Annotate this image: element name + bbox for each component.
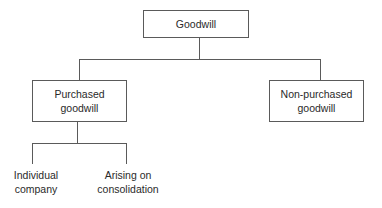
connector-level1-horizontal (79, 59, 321, 60)
leaf-arising-line2: consolidation (97, 182, 158, 196)
leaf-individual-line1: Individual (14, 168, 58, 182)
connector-purchased-stem (77, 122, 78, 143)
leaf-arising-line1: Arising on (97, 168, 158, 182)
connector-to-purchased (79, 59, 80, 80)
node-purchased-line1: Purchased (54, 87, 104, 101)
node-non-purchased-line1: Non-purchased (281, 87, 353, 101)
leaf-arising-on-consolidation: Arising on consolidation (97, 168, 158, 196)
leaf-individual-line2: company (14, 182, 58, 196)
node-purchased-goodwill: Purchased goodwill (32, 80, 127, 122)
node-purchased-line2: goodwill (54, 101, 104, 115)
node-goodwill-label: Goodwill (176, 17, 216, 31)
goodwill-tree-diagram: Goodwill Purchased goodwill Non-purchase… (0, 0, 382, 208)
node-goodwill: Goodwill (143, 10, 249, 38)
connector-level2-horizontal (32, 143, 127, 144)
connector-to-non-purchased (320, 59, 321, 80)
leaf-individual-company: Individual company (14, 168, 58, 196)
connector-to-arising-on-consolidation (126, 143, 127, 164)
connector-root-stem (199, 38, 200, 59)
node-non-purchased-goodwill: Non-purchased goodwill (269, 80, 364, 122)
node-non-purchased-line2: goodwill (281, 101, 353, 115)
connector-to-individual-company (32, 143, 33, 164)
